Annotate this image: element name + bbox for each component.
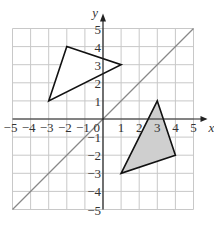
coordinate-grid: −5−4−3−2−11234554321−1−2−3−4−50xy — [0, 0, 214, 225]
y-tick-label: 2 — [95, 76, 102, 91]
y-axis-label: y — [90, 5, 98, 20]
x-tick-label: 1 — [118, 120, 125, 135]
x-tick-label: −5 — [4, 120, 18, 135]
y-tick-label: −4 — [87, 184, 101, 199]
y-tick-label: −3 — [87, 166, 101, 181]
y-tick-label: −5 — [87, 203, 101, 218]
y-axis-arrow-icon — [100, 14, 106, 22]
x-tick-label: 3 — [154, 120, 161, 135]
x-tick-label: −2 — [58, 120, 72, 135]
origin-label: 0 — [94, 120, 101, 135]
y-tick-label: 3 — [95, 58, 102, 73]
x-tick-label: −3 — [40, 120, 54, 135]
x-tick-label: 2 — [136, 120, 143, 135]
x-tick-label: 5 — [190, 120, 197, 135]
x-tick-label: 4 — [172, 120, 179, 135]
y-tick-label: 5 — [95, 22, 102, 37]
x-axis-arrow-icon — [201, 116, 208, 122]
y-tick-label: −2 — [87, 148, 101, 163]
x-tick-label: −4 — [22, 120, 36, 135]
tick-labels: −5−4−3−2−11234554321−1−2−3−4−50xy — [4, 5, 214, 218]
x-axis-label: x — [208, 120, 215, 135]
y-tick-label: 1 — [95, 94, 102, 109]
y-tick-label: 4 — [95, 40, 102, 55]
